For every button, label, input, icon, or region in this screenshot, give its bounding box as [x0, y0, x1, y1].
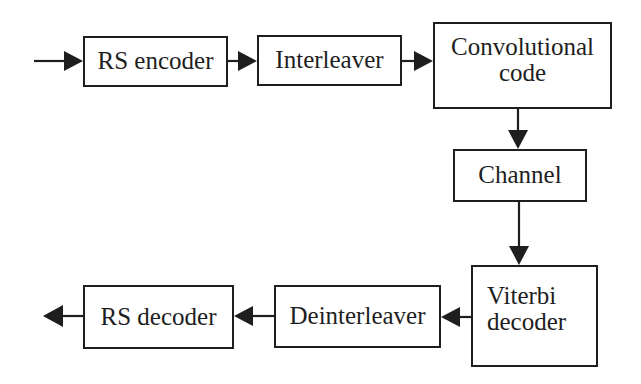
conv-code-label-line1: Convolutional — [451, 34, 594, 60]
rs-decoder-block: RS decoder — [83, 285, 234, 349]
block-diagram: RS encoder Interleaver Convolutional cod… — [0, 0, 641, 384]
deinterleaver-block: Deinterleaver — [274, 285, 441, 348]
rs-decoder-label: RS decoder — [101, 304, 217, 330]
arrowhead-icon — [43, 305, 63, 327]
conv-code-label-line2: code — [499, 60, 546, 86]
rs-encoder-block: RS encoder — [83, 36, 228, 87]
viterbi-label-line2: decoder — [487, 309, 566, 335]
deinterleaver-label: Deinterleaver — [289, 303, 425, 329]
arrowhead-icon — [441, 307, 460, 327]
interleaver-label: Interleaver — [275, 47, 383, 73]
arrowhead-icon — [234, 306, 253, 326]
arrowhead-icon — [64, 51, 83, 71]
channel-label: Channel — [478, 162, 561, 188]
viterbi-decoder-block: Viterbi decoder — [471, 265, 598, 367]
arrowhead-icon — [509, 246, 529, 265]
viterbi-label-line1: Viterbi — [487, 283, 556, 309]
convolutional-code-block: Convolutional code — [433, 22, 612, 109]
arrowhead-icon — [414, 51, 433, 71]
rs-encoder-label: RS encoder — [98, 48, 214, 74]
channel-block: Channel — [453, 149, 587, 202]
arrowhead-icon — [508, 130, 528, 149]
arrowhead-icon — [238, 51, 257, 71]
interleaver-block: Interleaver — [257, 35, 402, 86]
